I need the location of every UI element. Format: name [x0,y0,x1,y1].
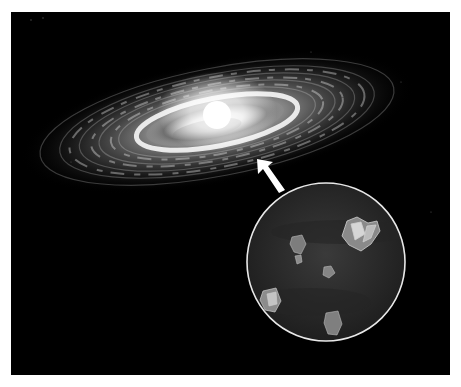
central-star [203,101,231,129]
illustration-frame [11,12,450,375]
magnified-inset [247,183,411,341]
disk-illustration [11,12,450,375]
